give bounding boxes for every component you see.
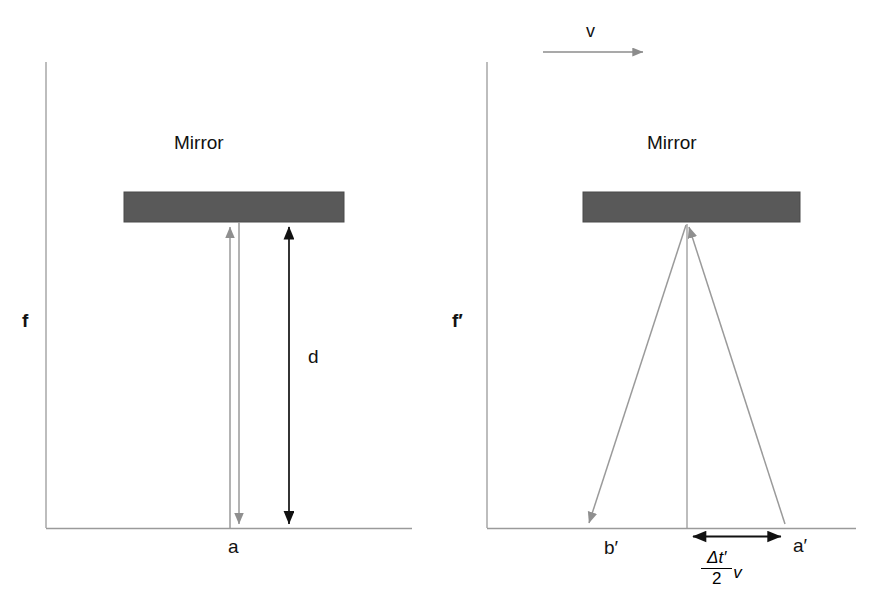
frame-label-rest: f [22,311,28,330]
diagram-svg [0,0,878,605]
light-ray-outgoing [589,225,686,523]
panel-moving-frame [487,52,856,537]
point-label-b-prime: b′ [604,538,618,557]
mirror-moving-frame [583,192,800,222]
physics-diagram: Mirror f d a v Mirror f′ b′ a′ Δt′ 2 v [0,0,878,605]
mirror-label-moving-frame: Mirror [647,133,697,152]
fraction-delta-t-over-2: Δt′ 2 [704,549,729,589]
frame-label-moving: f′ [452,311,463,330]
displacement-expression: Δt′ 2 v [704,549,742,589]
displacement-multiplier-v: v [733,554,742,583]
panel-rest-frame [46,62,412,529]
velocity-label-v: v [586,22,595,40]
distance-label-d: d [308,347,319,366]
point-label-a-prime: a′ [793,536,807,555]
light-ray-incoming [689,227,785,524]
fraction-denominator: 2 [701,568,732,588]
fraction-numerator: Δt′ [704,549,729,568]
mirror-label-rest-frame: Mirror [174,133,224,152]
mirror-rest-frame [124,192,344,222]
point-label-a: a [228,537,239,556]
